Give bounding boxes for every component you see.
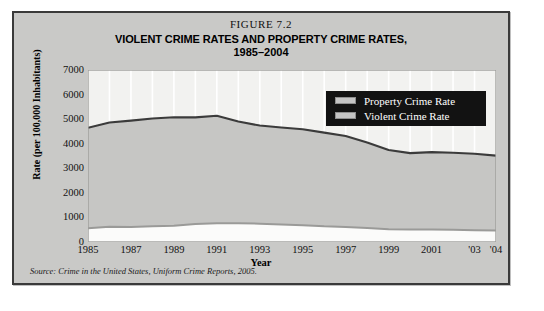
legend-item-violent: Violent Crime Rate [326,108,486,123]
x-tick-1999: 1999 [378,244,399,255]
y-tick-6000: 6000 [48,90,84,100]
x-tick-2004: '04 [490,244,502,255]
y-tick-2000: 2000 [48,188,84,198]
y-tick-7000: 7000 [48,65,84,75]
chart-subtitle: 1985–2004 [14,46,508,59]
x-tick-1997: 1997 [335,244,356,255]
x-tick-1985: 1985 [78,244,99,255]
legend-label-property: Property Crime Rate [364,95,455,107]
x-tick-2003: '03 [468,244,480,255]
x-tick-1991: 1991 [206,244,227,255]
x-tick-1989: 1989 [163,244,184,255]
chart-title: VIOLENT CRIME RATES AND PROPERTY CRIME R… [14,33,508,46]
y-axis-label: Rate (per 100,000 Inhabitants) [31,45,42,185]
figure-panel: FIGURE 7.2 VIOLENT CRIME RATES AND PROPE… [12,11,510,285]
y-axis-tick-labels: 70006000500040003000200010000 [44,65,84,247]
property-swatch-icon [335,97,356,104]
x-tick-1987: 1987 [120,244,141,255]
x-axis-tick-labels: 198519871989199119931995199719992001'03'… [88,244,496,258]
x-tick-1993: 1993 [249,244,270,255]
legend-item-property: Property Crime Rate [326,93,486,108]
source-note: Source: Crime in the United States, Unif… [30,266,257,276]
violent-swatch-icon [335,112,356,119]
x-tick-1995: 1995 [292,244,313,255]
y-tick-1000: 1000 [48,212,84,222]
y-tick-3000: 3000 [48,163,84,173]
y-tick-5000: 5000 [48,114,84,124]
figure-number: FIGURE 7.2 [14,18,508,30]
chart-legend: Property Crime Rate Violent Crime Rate [326,91,486,126]
legend-label-violent: Violent Crime Rate [364,110,450,122]
y-tick-4000: 4000 [48,139,84,149]
x-tick-2001: 2001 [421,244,442,255]
